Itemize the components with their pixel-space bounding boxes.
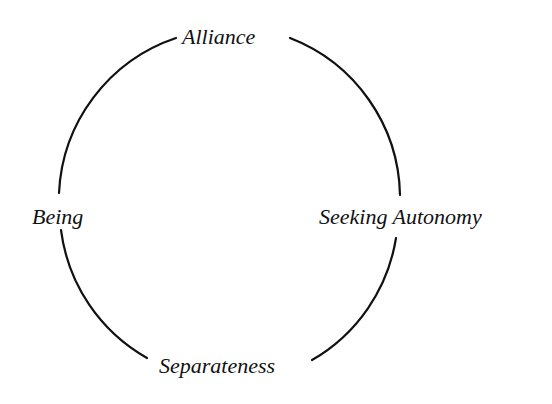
node-label-alliance: Alliance: [182, 26, 255, 48]
node-label-seeking-autonomy: Seeking Autonomy: [319, 206, 482, 228]
node-label-separateness: Separateness: [159, 355, 275, 377]
arc-being-to-alliance: [59, 38, 176, 193]
arc-seeking-autonomy-to-separateness: [312, 238, 396, 360]
arc-alliance-to-seeking-autonomy: [290, 38, 400, 195]
cycle-diagram: Alliance Seeking Autonomy Separateness B…: [0, 0, 552, 404]
cycle-arcs: [0, 0, 552, 404]
arc-separateness-to-being: [61, 230, 147, 358]
node-label-being: Being: [32, 206, 83, 228]
